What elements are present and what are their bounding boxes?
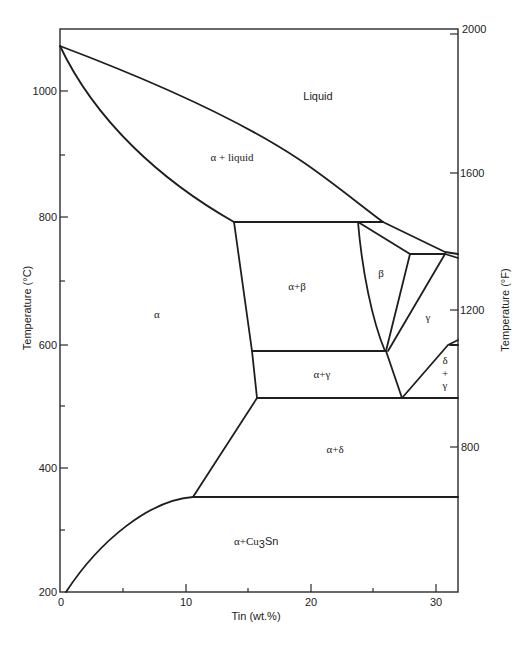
y-tick-200: 200 xyxy=(39,586,57,598)
gamma-left-boundary xyxy=(388,254,445,351)
label-alpha: α xyxy=(154,308,160,320)
x-tick-20: 20 xyxy=(305,596,317,608)
left-axis-labels: 1000 800 600 400 200 xyxy=(33,85,57,598)
right-axis-ticks xyxy=(450,34,458,447)
label-plus: + xyxy=(442,367,448,379)
y-right-tick-800: 800 xyxy=(461,441,479,453)
plot-frame xyxy=(60,29,458,592)
x-axis-labels: 0 10 20 30 xyxy=(58,596,442,608)
x-axis-title: Tin (wt.%) xyxy=(231,610,280,622)
label-gamma-2: γ xyxy=(442,379,448,391)
region-labels: Liquid α + liquid α α+β β γ α+γ δ + γ α+… xyxy=(154,90,448,550)
y-right-tick-1200: 1200 xyxy=(460,304,484,316)
label-beta: β xyxy=(378,267,384,279)
label-liquid: Liquid xyxy=(303,90,332,102)
x-axis-ticks xyxy=(123,584,436,592)
label-alpha-cu3sn: α+Cu3Sn xyxy=(234,535,278,550)
label-alpha-liquid: α + liquid xyxy=(210,151,254,163)
phase-boundaries xyxy=(60,46,458,592)
beta-left-boundary xyxy=(358,222,385,351)
y-axis-title-left: Temperature (°C) xyxy=(21,266,33,350)
label-delta: δ xyxy=(442,354,447,366)
y-tick-1000: 1000 xyxy=(33,85,57,97)
label-alpha-gamma: α+γ xyxy=(314,368,331,380)
label-alpha-beta: α+β xyxy=(288,280,306,292)
x-tick-0: 0 xyxy=(58,596,64,608)
y-right-tick-1600: 1600 xyxy=(460,167,484,179)
beta-right-boundary xyxy=(386,254,410,351)
y-axis-title-right: Temperature (°F) xyxy=(499,268,511,351)
label-alpha-cu-part: α+Cu xyxy=(234,535,259,547)
right-axis-labels: 2000 1600 1200 800 xyxy=(460,23,486,453)
gamma-lower-left xyxy=(386,351,402,398)
left-axis-ticks xyxy=(60,91,68,530)
alpha-cu3sn-boundary xyxy=(66,497,193,592)
cu-sn-phase-diagram: 1000 800 600 400 200 2000 1600 1200 800 … xyxy=(0,0,531,646)
x-tick-10: 10 xyxy=(180,596,192,608)
y-tick-400: 400 xyxy=(39,462,57,474)
label-alpha-delta: α+δ xyxy=(326,443,343,455)
y-tick-600: 600 xyxy=(39,339,57,351)
x-tick-30: 30 xyxy=(430,596,442,608)
solidus-line xyxy=(60,46,234,222)
beta-upper-boundary xyxy=(358,222,410,254)
gamma-delta-boundary xyxy=(402,340,458,398)
label-sn-part: Sn xyxy=(265,535,278,547)
label-gamma: γ xyxy=(425,311,431,323)
y-tick-800: 800 xyxy=(39,211,57,223)
y-right-tick-2000: 2000 xyxy=(462,23,486,35)
alpha-solvus xyxy=(193,222,257,497)
